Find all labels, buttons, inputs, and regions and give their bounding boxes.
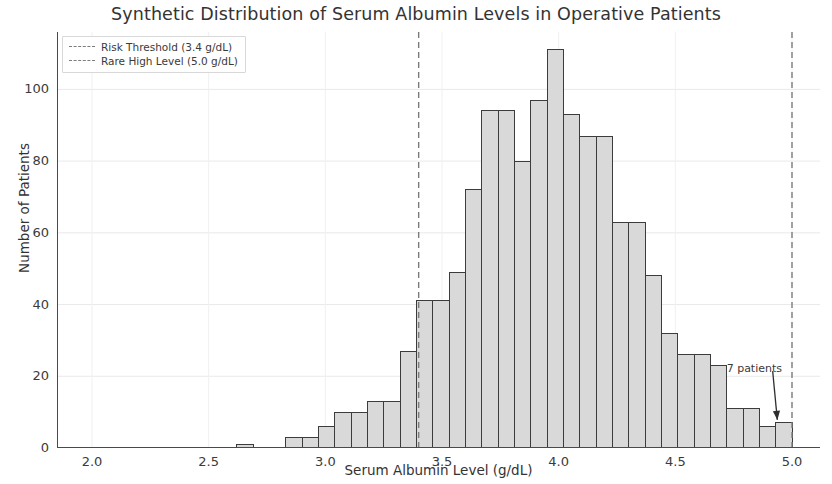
plot-svg <box>57 32 820 448</box>
annotation-arrow <box>773 371 780 420</box>
dashed-line-icon <box>69 46 95 48</box>
legend-label: Rare High Level (5.0 g/dL) <box>101 55 238 68</box>
y-tick-label: 100 <box>5 81 49 96</box>
page-title: Synthetic Distribution of Serum Albumin … <box>0 4 832 24</box>
annotation-7-patients: 7 patients <box>727 362 782 375</box>
histogram-figure: Synthetic Distribution of Serum Albumin … <box>0 0 832 484</box>
y-axis-label: Number of Patients <box>16 108 32 308</box>
x-axis-label: Serum Albumin Level (g/dL) <box>57 462 820 478</box>
y-tick-label: 0 <box>5 440 49 455</box>
legend: Risk Threshold (3.4 g/dL) Rare High Leve… <box>62 36 246 73</box>
legend-label: Risk Threshold (3.4 g/dL) <box>101 41 232 54</box>
legend-item-risk-threshold: Risk Threshold (3.4 g/dL) <box>69 40 238 54</box>
y-tick-label: 20 <box>5 368 49 383</box>
histogram-bars <box>237 50 792 448</box>
plot-area <box>57 32 820 448</box>
dashed-line-icon <box>69 60 95 62</box>
legend-item-rare-high-level: Rare High Level (5.0 g/dL) <box>69 54 238 68</box>
